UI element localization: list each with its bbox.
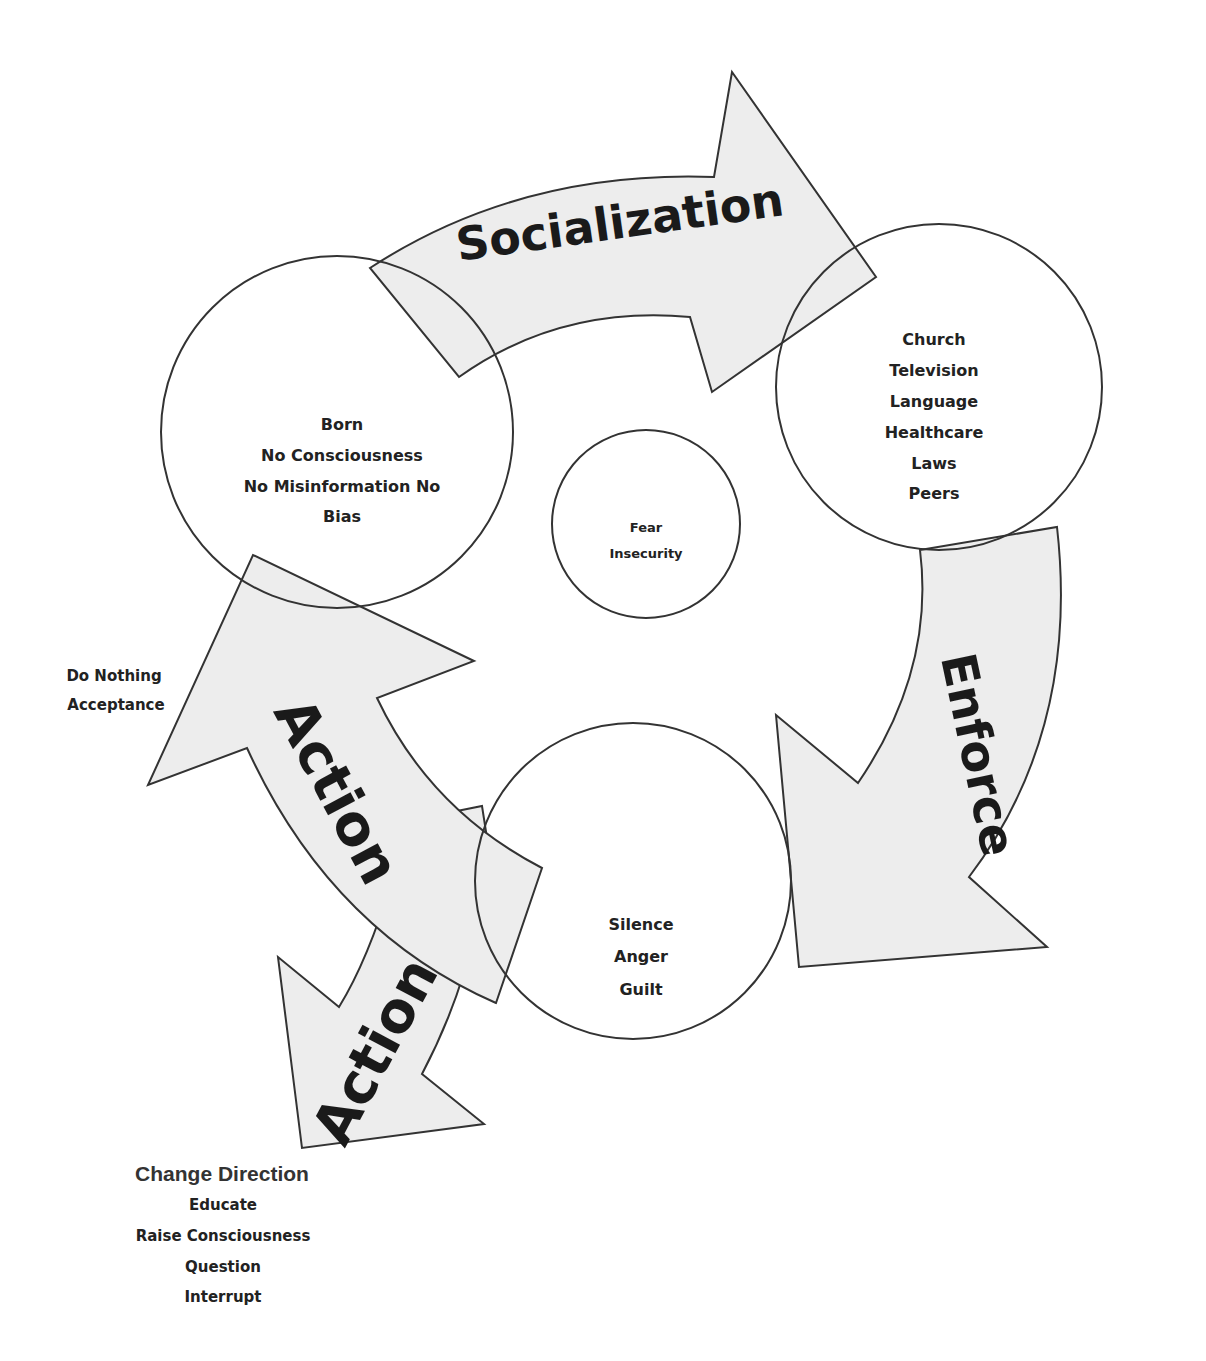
institution-item: Laws bbox=[911, 454, 956, 473]
socialization-arrow: Socialization bbox=[370, 72, 876, 392]
change-direction-item: Raise Consciousness bbox=[136, 1227, 311, 1245]
result-line: Anger bbox=[614, 947, 668, 966]
enforce-arrow: Enforce bbox=[776, 527, 1061, 967]
start-line: No Consciousness bbox=[261, 446, 423, 465]
start-circle-text: Born No Consciousness No Misinformation … bbox=[244, 415, 441, 526]
institution-item: Church bbox=[902, 330, 965, 349]
change-direction-item: Question bbox=[185, 1258, 261, 1276]
action-upper-arrow: Action bbox=[148, 555, 542, 1003]
do-nothing-line: Acceptance bbox=[67, 696, 164, 714]
center-circle-text: Fear Insecurity bbox=[609, 520, 683, 561]
result-line: Guilt bbox=[619, 980, 662, 999]
start-line: Bias bbox=[323, 507, 361, 526]
do-nothing-note: Do Nothing Acceptance bbox=[66, 667, 164, 714]
do-nothing-line: Do Nothing bbox=[66, 667, 161, 685]
start-line: Born bbox=[321, 415, 363, 434]
institution-item: Healthcare bbox=[885, 423, 984, 442]
result-line: Silence bbox=[608, 915, 673, 934]
start-line: No Misinformation No bbox=[244, 477, 441, 496]
institutions-circle-text: Church Television Language Healthcare La… bbox=[885, 330, 984, 503]
institution-item: Peers bbox=[909, 484, 960, 503]
institution-item: Television bbox=[889, 361, 978, 380]
change-direction-item: Educate bbox=[189, 1196, 257, 1214]
results-circle-text: Silence Anger Guilt bbox=[608, 915, 673, 999]
center-line: Fear bbox=[630, 520, 663, 535]
cycle-diagram: Action Action Socialization Enforce Born… bbox=[0, 0, 1206, 1361]
institution-item: Language bbox=[890, 392, 978, 411]
change-direction-title: Change Direction bbox=[135, 1162, 309, 1185]
center-line: Insecurity bbox=[609, 546, 683, 561]
change-direction-item: Interrupt bbox=[185, 1288, 262, 1306]
change-direction-note: Change Direction Educate Raise Conscious… bbox=[135, 1162, 310, 1306]
